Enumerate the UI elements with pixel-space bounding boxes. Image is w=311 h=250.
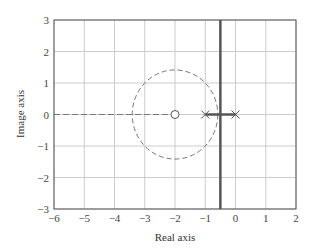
y-tick-label: 1: [44, 77, 50, 89]
x-tick-label: 1: [263, 212, 269, 224]
y-tick-label: 3: [44, 14, 50, 26]
x-tick-label: −1: [199, 212, 211, 224]
x-tick-label: −4: [109, 212, 121, 224]
zero-marker-icon: [171, 111, 179, 119]
y-axis-label: Image axis: [14, 90, 26, 138]
x-tick-label: −2: [169, 212, 181, 224]
x-tick-label: −5: [78, 212, 90, 224]
x-tick-label: 2: [293, 212, 299, 224]
x-axis-label: Real axis: [155, 231, 196, 243]
root-locus-chart: −6−5−4−3−2−1012−3−2−10123 Real axis Imag…: [0, 0, 311, 250]
y-tick-label: 2: [44, 46, 50, 58]
y-tick-label: −1: [37, 140, 49, 152]
y-tick-label: −2: [37, 172, 49, 184]
y-tick-label: −3: [37, 203, 49, 215]
x-tick-label: −3: [139, 212, 151, 224]
locus: [54, 20, 240, 209]
x-tick-label: −6: [48, 212, 60, 224]
y-tick-label: 0: [44, 109, 50, 121]
tick-labels: −6−5−4−3−2−1012−3−2−10123: [37, 14, 298, 224]
x-tick-label: 0: [233, 212, 239, 224]
